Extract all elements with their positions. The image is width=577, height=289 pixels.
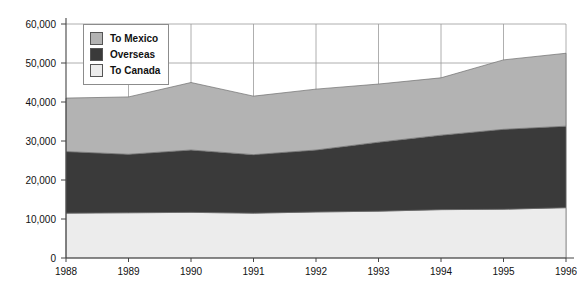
- x-axis-tick-label: 1993: [367, 266, 390, 277]
- legend-swatch-to-mexico: [90, 32, 103, 45]
- y-axis-tick-label: 10,000: [25, 214, 56, 225]
- y-axis-tick-labels: 010,00020,00030,00040,00050,00060,000: [25, 19, 56, 264]
- x-axis-tick-label: 1989: [117, 266, 140, 277]
- x-axis-tick-label: 1994: [430, 266, 453, 277]
- legend-item-overseas: Overseas: [90, 47, 160, 62]
- y-axis-tick-label: 60,000: [25, 19, 56, 30]
- stacked-area-chart: 010,00020,00030,00040,00050,00060,000 19…: [0, 0, 577, 289]
- x-axis-tick-label: 1992: [305, 266, 328, 277]
- x-axis-tick-label: 1988: [55, 266, 78, 277]
- legend-item-to-mexico: To Mexico: [90, 31, 160, 46]
- x-axis-tick-label: 1990: [180, 266, 203, 277]
- x-axis-tick-label: 1995: [492, 266, 515, 277]
- y-axis-tick-label: 30,000: [25, 136, 56, 147]
- y-axis-tick-label: 40,000: [25, 97, 56, 108]
- legend-swatch-overseas: [90, 48, 103, 61]
- legend-swatch-to-canada: [90, 64, 103, 77]
- y-axis-tick-label: 20,000: [25, 175, 56, 186]
- x-axis-tick-label: 1991: [242, 266, 265, 277]
- legend-label-overseas: Overseas: [110, 49, 155, 60]
- x-axis-tick-labels: 198819891990199119921993199419951996: [55, 266, 577, 277]
- area-series-to-canada: [66, 208, 566, 258]
- y-axis-tick-label: 50,000: [25, 58, 56, 69]
- chart-legend: To Mexico Overseas To Canada: [83, 24, 169, 85]
- legend-label-to-mexico: To Mexico: [110, 33, 158, 44]
- x-axis-tick-label: 1996: [555, 266, 577, 277]
- legend-label-to-canada: To Canada: [110, 65, 160, 76]
- legend-item-to-canada: To Canada: [90, 63, 160, 78]
- y-axis-tick-label: 0: [50, 253, 56, 264]
